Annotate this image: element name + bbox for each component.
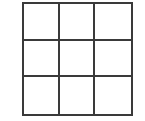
board-cell-3-1[interactable]: [24, 77, 60, 114]
game-board: [22, 2, 133, 116]
board-cell-2-1[interactable]: [24, 41, 60, 78]
board-cell-2-2[interactable]: [60, 41, 96, 78]
board-cell-3-3[interactable]: [95, 77, 131, 114]
board-cell-1-1[interactable]: [24, 4, 60, 41]
board-cell-1-3[interactable]: [95, 4, 131, 41]
board-cell-2-3[interactable]: [95, 41, 131, 78]
board-cell-3-2[interactable]: [60, 77, 96, 114]
board-cell-1-2[interactable]: [60, 4, 96, 41]
